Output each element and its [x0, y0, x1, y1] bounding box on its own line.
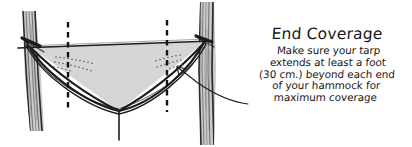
- annotation-body: Make sure your tarp extends at least a f…: [241, 45, 412, 104]
- right-tree-trunk: [198, 2, 216, 145]
- annotation-body-line-2: extends at least a foot: [243, 57, 412, 69]
- annotation-block: End Coverage Make sure your tarp extends…: [243, 26, 411, 104]
- left-tree-trunk: [22, 11, 44, 131]
- annotation-title: End Coverage: [242, 26, 411, 43]
- annotation-body-line-5: maximum coverage: [241, 92, 410, 104]
- illustration-canvas: End Coverage Make sure your tarp extends…: [0, 0, 412, 147]
